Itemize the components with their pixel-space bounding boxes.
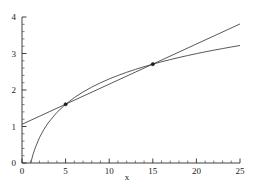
x-tick-label: 5 [63,166,68,176]
x-tick-label: 10 [105,166,115,176]
y-tick-label: 3 [12,49,17,59]
chart-figure: 01234 0510152025 x [0,0,255,187]
intersection-point-1 [64,103,67,106]
x-tick-label: 0 [20,166,25,176]
secant-line [22,24,240,124]
y-tick-label: 0 [12,158,17,168]
logarithmic-curve [31,46,240,163]
y-tick-label: 2 [12,85,17,95]
x-axis-tick-labels: 0510152025 [20,166,245,176]
x-axis-ticks [22,159,240,164]
intersection-point-2 [151,63,154,66]
plot-canvas: 01234 0510152025 x [0,0,255,187]
y-axis-ticks [22,17,27,163]
x-axis-label: x [125,172,130,182]
y-tick-label: 4 [12,12,17,22]
y-axis-tick-labels: 01234 [12,12,17,168]
y-tick-label: 1 [12,122,17,132]
x-tick-label: 25 [236,166,246,176]
x-tick-label: 20 [192,166,202,176]
x-tick-label: 15 [148,166,158,176]
